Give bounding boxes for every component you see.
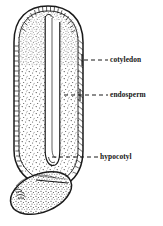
label-endosperm: endosperm [110,91,146,98]
seed-diagram [0,0,163,226]
cotyledon-tube [45,14,60,165]
label-hypocotyl: hypocotyl [100,153,132,160]
label-cotyledon: cotyledon [110,56,141,63]
figure-page: cotyledon endosperm hypocotyl [0,0,163,226]
